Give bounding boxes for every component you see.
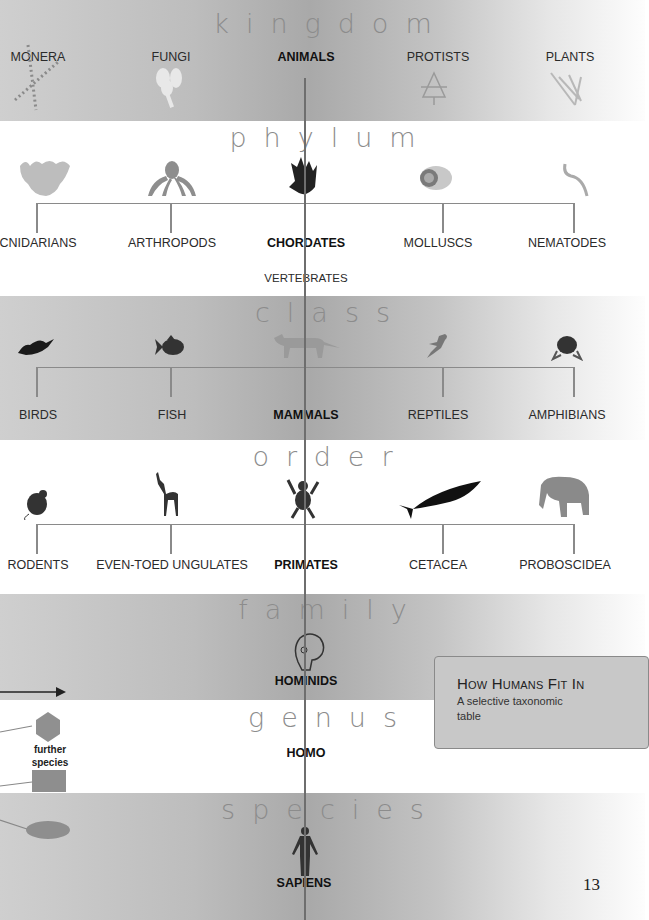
class-amphibians: AMPHIBIANS xyxy=(528,408,605,422)
rank-heading-phylum: phylum xyxy=(0,122,645,153)
rank-heading-order: order xyxy=(0,441,645,472)
phylum-cnidarians: CNIDARIANS xyxy=(0,236,77,250)
fish-icon xyxy=(153,335,187,359)
phylum-arthropods: ARTHROPODS xyxy=(128,236,216,250)
thylacine-icon xyxy=(270,330,342,360)
order-rodents: RODENTS xyxy=(7,558,68,572)
rank-heading-class: class xyxy=(0,297,645,328)
class-birds: BIRDS xyxy=(19,408,57,422)
title-box: How Humans Fit In A selective taxonomic … xyxy=(434,656,649,749)
class-drop-4 xyxy=(442,367,444,397)
lineage-spine-line xyxy=(304,78,306,920)
class-fish: FISH xyxy=(158,408,186,422)
phylum-drop-5 xyxy=(573,203,575,233)
lizard-icon xyxy=(423,332,451,360)
order-proboscidea: PROBOSCIDEA xyxy=(519,558,611,572)
page-subtitle: A selective taxonomic table xyxy=(457,694,577,724)
class-drop-1 xyxy=(36,367,38,397)
phylum-drop-1 xyxy=(36,203,38,233)
family-hominids: HOMINIDS xyxy=(275,674,338,688)
frog-icon xyxy=(551,333,583,361)
whale-icon xyxy=(397,475,487,521)
rank-heading-kingdom: kingdom xyxy=(0,8,645,39)
arrow-right-icon xyxy=(0,685,70,699)
class-mammals: MAMMALS xyxy=(273,408,338,422)
phylum-nematodes: NEMATODES xyxy=(528,236,606,250)
fern-icon xyxy=(545,69,589,109)
bacteria-icon xyxy=(10,40,70,115)
phylum-drop-2 xyxy=(170,203,172,233)
order-drop-5 xyxy=(573,524,575,554)
square-icon xyxy=(0,768,70,794)
mouse-icon xyxy=(21,488,53,522)
elephant-icon xyxy=(531,475,593,521)
class-drop-2 xyxy=(170,367,172,397)
order-drop-4 xyxy=(442,524,444,554)
further-species-label: further species xyxy=(28,743,72,769)
rank-heading-family: family xyxy=(0,594,645,625)
worm-icon xyxy=(561,160,591,200)
class-reptiles: REPTILES xyxy=(408,408,468,422)
order-even-toed-ungulates: EVEN-TOED UNGULATES xyxy=(96,558,248,572)
kingdom-fungi: FUNGI xyxy=(152,50,191,64)
order-cetacea: CETACEA xyxy=(409,558,467,572)
ellipse-icon xyxy=(0,812,72,844)
order-drop-1 xyxy=(36,524,38,554)
monkey-icon xyxy=(286,478,320,522)
bird-icon xyxy=(16,333,56,357)
kingdom-protists: PROTISTS xyxy=(407,50,470,64)
hexagon-icon xyxy=(0,708,64,748)
rank-heading-species: species xyxy=(0,794,645,825)
phylum-chordates: CHORDATES xyxy=(267,236,345,250)
phylum-drop-4 xyxy=(442,203,444,233)
octopus-icon xyxy=(146,160,198,198)
order-drop-2 xyxy=(170,524,172,554)
order-primates: PRIMATES xyxy=(274,558,338,572)
class-drop-5 xyxy=(573,367,575,397)
mushroom-icon xyxy=(151,66,191,111)
page-number: 13 xyxy=(583,875,600,895)
kingdom-animals: ANIMALS xyxy=(278,50,335,64)
kingdom-plants: PLANTS xyxy=(546,50,595,64)
phylum-molluscs: MOLLUSCS xyxy=(404,236,473,250)
coral-icon xyxy=(16,158,72,198)
antelope-icon xyxy=(152,470,182,520)
protist-icon xyxy=(419,71,449,107)
genus-homo: HOMO xyxy=(287,746,326,760)
nautilus-icon xyxy=(416,163,454,193)
subphylum-vertebrates: VERTEBRATES xyxy=(264,272,347,284)
skull-icon xyxy=(290,632,326,674)
page-title: How Humans Fit In xyxy=(457,675,584,692)
